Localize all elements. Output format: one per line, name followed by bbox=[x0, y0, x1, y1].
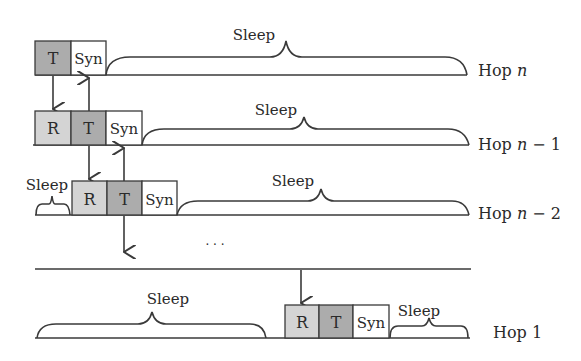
hop-n-1-label: Hop n − 1 bbox=[478, 135, 561, 154]
hop-n-1-row: R T Syn Sleep Hop n − 1 bbox=[33, 101, 561, 154]
hop-n-2-label: Hop n − 2 bbox=[478, 204, 561, 223]
hop-n-2-sleep-brace bbox=[177, 189, 469, 215]
hop-n-2-sync-label: Syn bbox=[145, 191, 174, 209]
hop-n-2-pre-sleep-label: Sleep bbox=[26, 176, 68, 194]
hop-n-sync-label: Syn bbox=[74, 50, 103, 68]
hop-1-receive-label: R bbox=[296, 313, 309, 332]
hop-n-2-row: Sleep R T Syn Sleep Hop n − 2 bbox=[26, 172, 561, 223]
hop-n-2-receive-label: R bbox=[83, 190, 96, 209]
hop-1-post-sleep-brace bbox=[390, 318, 468, 338]
hop-1-label: Hop 1 bbox=[493, 323, 542, 342]
hop-1-sync-label: Syn bbox=[357, 314, 386, 332]
hop-n-sleep-brace bbox=[106, 41, 467, 75]
hop-1-row: Sleep R T Syn Sleep Hop 1 bbox=[35, 290, 542, 342]
hop-n-2-sleep-label: Sleep bbox=[272, 172, 314, 190]
hop-n-1-sleep-label: Sleep bbox=[255, 101, 297, 119]
hop-1-pre-sleep-label: Sleep bbox=[147, 290, 189, 308]
hop-n-2-pre-sleep-brace bbox=[36, 196, 70, 215]
hop-1-transmit-label: T bbox=[331, 313, 342, 332]
hop-n-2-transmit-label: T bbox=[119, 190, 130, 209]
hop-n-sleep-label: Sleep bbox=[233, 26, 275, 44]
hop-n-label: Hop n bbox=[478, 61, 527, 80]
intermediate-hops-ellipsis: · · · bbox=[205, 238, 224, 252]
hop-1-pre-sleep-brace bbox=[37, 312, 266, 338]
hop-n-1-sync-label: Syn bbox=[110, 120, 139, 138]
hop-n-1-sleep-brace bbox=[142, 117, 469, 145]
hop-n-transmit-label: T bbox=[48, 49, 59, 68]
hop-1-post-sleep-label: Sleep bbox=[398, 302, 440, 320]
multi-hop-schedule-diagram: T Syn Sleep Hop n R T Syn Sleep Hop n − … bbox=[0, 0, 581, 361]
hop-n-1-receive-label: R bbox=[47, 119, 60, 138]
hop-n-1-transmit-label: T bbox=[83, 119, 94, 138]
hop-n-row: T Syn Sleep Hop n bbox=[35, 26, 527, 80]
